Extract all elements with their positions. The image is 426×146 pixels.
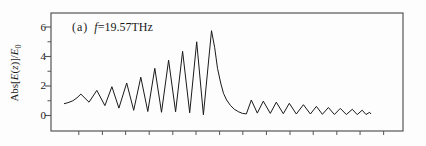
y-tick-label-6: 6 <box>26 20 46 34</box>
y-axis-title-text: Abs[E(z)]/E0 <box>8 44 20 101</box>
y-axis-title: Abs[E(z)]/E0 <box>7 19 21 127</box>
panel-label: (a) <box>72 20 88 34</box>
panel-annotation: (a)f=19.57THz <box>72 20 153 34</box>
plot-area <box>0 0 426 146</box>
y-tick-label-4: 4 <box>26 49 46 63</box>
y-tick-label-0: 0 <box>26 108 46 122</box>
figure-panel: Abs[E(z)]/E0 6 4 2 0 (a)f=19.57THz <box>0 0 426 146</box>
frequency-value: =19.57THz <box>98 20 153 34</box>
y-tick-label-2: 2 <box>26 78 46 92</box>
